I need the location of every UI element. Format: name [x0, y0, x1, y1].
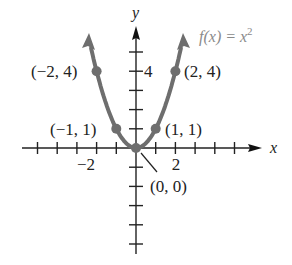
curve-left-arrow-icon	[82, 33, 95, 50]
x-tick-label-2: 2	[172, 155, 181, 174]
point-label-neg1-1: (−1, 1)	[50, 120, 96, 139]
data-point	[170, 66, 180, 76]
function-label-exponent: 2	[247, 25, 253, 37]
function-label-base: f(x) = x	[199, 28, 247, 46]
y-tick-label-4: 4	[144, 62, 153, 81]
y-axis-arrow-icon	[132, 26, 140, 40]
data-point	[111, 124, 121, 134]
x-axis-label: x	[269, 139, 277, 156]
curve-right-arrow-icon	[177, 33, 190, 50]
data-point	[151, 124, 161, 134]
point-label-1-1: (1, 1)	[165, 120, 202, 139]
point-label-0-0: (0, 0)	[150, 177, 187, 196]
data-point	[92, 66, 102, 76]
x-axis-arrow-icon	[248, 144, 262, 152]
y-axis-label: y	[130, 4, 140, 22]
data-point	[131, 143, 141, 153]
origin-leader-line	[141, 153, 157, 172]
point-label-2-4: (2, 4)	[184, 62, 221, 81]
function-label: f(x) = x2	[199, 25, 253, 46]
x-tick-label-neg2: −2	[77, 155, 95, 174]
parabola-chart: x y −2 2 4 (−2, 4) (−1, 1) (0, 0) (1, 1)…	[0, 0, 292, 265]
point-label-neg2-4: (−2, 4)	[31, 62, 77, 81]
